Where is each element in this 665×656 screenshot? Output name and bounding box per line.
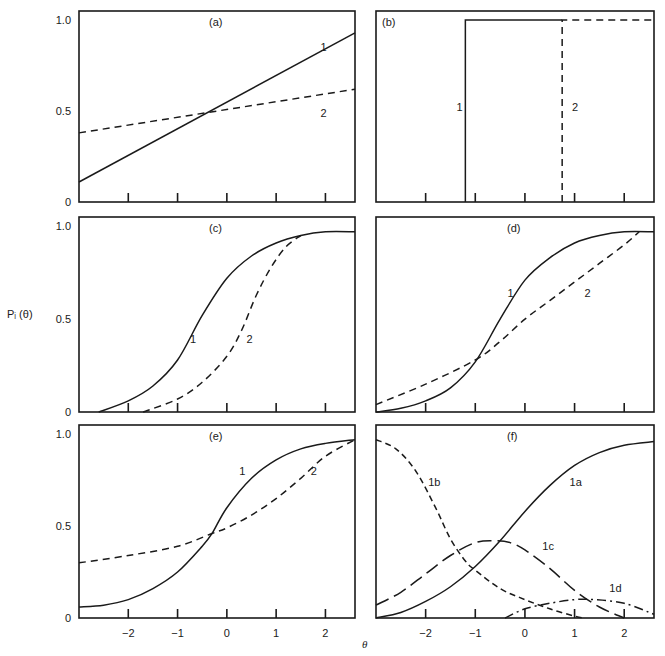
x-tick-label: 1 (273, 627, 279, 639)
curve-2 (79, 89, 355, 133)
plot-frame (376, 11, 654, 202)
panel-title: (f) (507, 430, 517, 442)
curve-label-2: 2 (572, 101, 578, 113)
x-tick-label: 2 (621, 627, 627, 639)
curve-label-2: 2 (247, 333, 253, 345)
x-tick-label: 0 (522, 627, 528, 639)
x-tick-label: −2 (122, 627, 135, 639)
panel-c: 00.51.0(c)12 (56, 217, 355, 418)
panel-e: −2−101200.51.0(e)12 (56, 425, 355, 639)
curve-label-1: 1 (321, 41, 327, 53)
y-tick-label: 1.0 (56, 220, 71, 232)
plot-frame (376, 217, 654, 412)
curve-label-1d: 1d (609, 582, 621, 594)
curve-1 (79, 33, 355, 182)
y-tick-label: 0 (65, 612, 71, 624)
curve-label-1b: 1b (428, 476, 440, 488)
x-tick-label: −1 (171, 627, 184, 639)
curve-label-1a: 1a (570, 476, 583, 488)
panel-a: 00.51.0(a)12 (56, 11, 355, 208)
curve-label-2: 2 (321, 107, 327, 119)
curve-2 (79, 440, 355, 563)
y-tick-label: 0 (65, 196, 71, 208)
curve-label-2: 2 (585, 287, 591, 299)
panel-f: −2−1012(f)1a1b1c1d (376, 425, 654, 639)
panel-title: (e) (209, 430, 222, 442)
panel-d: (d)12 (376, 217, 654, 412)
x-tick-label: 1 (572, 627, 578, 639)
x-tick-label: 0 (224, 627, 230, 639)
plot-frame (79, 217, 355, 412)
curve-1 (465, 20, 562, 202)
panel-title: (a) (209, 16, 222, 28)
curve-label-1: 1 (239, 465, 245, 477)
plot-frame (79, 11, 355, 202)
y-tick-label: 1.0 (56, 14, 71, 26)
y-tick-label: 0.5 (56, 520, 71, 532)
x-tick-label: −2 (419, 627, 432, 639)
curve-1 (99, 232, 355, 412)
x-axis-label: θ (362, 638, 368, 650)
curve-label-1: 1 (456, 101, 462, 113)
curve-2 (376, 232, 639, 405)
irt-item-characteristic-curves-figure: 00.51.0(a)12 (b)12 00.51.0(c)12 (d)12 −2… (0, 0, 665, 656)
curve-2 (143, 236, 301, 412)
curve-label-1c: 1c (542, 540, 554, 552)
y-tick-label: 0.5 (56, 105, 71, 117)
plot-frame (79, 425, 355, 618)
y-tick-label: 0.5 (56, 313, 71, 325)
panel-title: (c) (209, 222, 222, 234)
panel-title: (d) (507, 222, 520, 234)
panel-b: (b)12 (376, 11, 654, 202)
curve-1 (376, 232, 654, 412)
panel-title: (b) (382, 16, 395, 28)
y-axis-label: Pᵢ (θ) (7, 308, 33, 320)
curve-1b (376, 440, 585, 618)
curve-label-2: 2 (311, 465, 317, 477)
curve-label-1: 1 (190, 333, 196, 345)
curve-1c (376, 541, 624, 618)
curve-label-1: 1 (508, 287, 514, 299)
y-tick-label: 0 (65, 406, 71, 418)
x-tick-label: −1 (469, 627, 482, 639)
x-tick-label: 2 (322, 627, 328, 639)
y-tick-label: 1.0 (56, 428, 71, 440)
curve-1d (505, 599, 654, 618)
